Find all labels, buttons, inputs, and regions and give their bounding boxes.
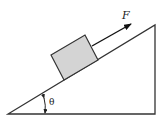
inclined-plane-diagram: F θ	[0, 0, 166, 117]
block	[51, 35, 98, 80]
angle-arc	[44, 98, 45, 113]
force-label: F	[121, 9, 130, 22]
angle-label: θ	[49, 97, 54, 107]
